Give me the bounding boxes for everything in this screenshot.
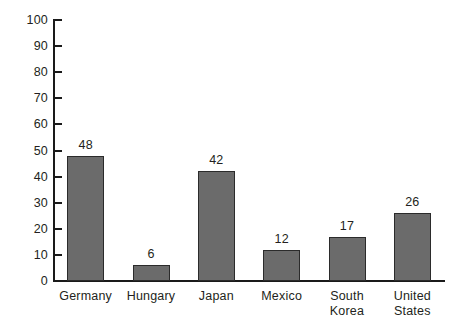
bar — [67, 156, 104, 281]
x-axis-category-label: Japan — [180, 289, 252, 304]
x-axis-category-label: Germany — [50, 289, 122, 304]
y-axis-tick-label: 30 — [4, 197, 48, 210]
x-axis-category-label: South Korea — [311, 289, 383, 319]
bar-chart: 0102030405060708090100 48642121726 Germa… — [0, 0, 467, 331]
y-axis-tick-label: 20 — [4, 223, 48, 236]
y-axis-tick — [55, 228, 62, 230]
bar-value-label: 6 — [121, 248, 181, 261]
y-axis-tick — [55, 45, 62, 47]
y-axis-tick-label: 70 — [4, 92, 48, 105]
x-axis-category-label: United States — [376, 289, 448, 319]
x-axis-line — [53, 280, 445, 282]
y-axis-tick-label: 60 — [4, 118, 48, 131]
y-axis-tick — [55, 254, 62, 256]
y-axis-tick-label: 100 — [4, 14, 48, 27]
y-axis-tick — [55, 176, 62, 178]
y-axis-tick — [55, 202, 62, 204]
y-axis-tick-label: 90 — [4, 40, 48, 53]
bar — [198, 171, 235, 281]
bar — [394, 213, 431, 281]
x-axis-category-label: Hungary — [115, 289, 187, 304]
y-axis-tick — [55, 19, 62, 21]
bar — [329, 237, 366, 281]
y-axis-tick-label: 10 — [4, 249, 48, 262]
bar-value-label: 48 — [56, 139, 116, 152]
y-axis-tick-label: 0 — [4, 275, 48, 288]
y-axis-tick-label: 40 — [4, 171, 48, 184]
y-axis-tick — [55, 123, 62, 125]
y-axis-tick-label: 80 — [4, 66, 48, 79]
y-axis-tick — [55, 97, 62, 99]
bar — [133, 265, 170, 281]
bar-value-label: 42 — [186, 154, 246, 167]
bar-value-label: 17 — [317, 220, 377, 233]
y-axis-tick — [55, 71, 62, 73]
bar-value-label: 26 — [382, 196, 442, 209]
bar-value-label: 12 — [252, 233, 312, 246]
x-axis-category-label: Mexico — [246, 289, 318, 304]
y-axis-tick — [55, 280, 62, 282]
bar — [263, 250, 300, 281]
y-axis-tick-label: 50 — [4, 145, 48, 158]
